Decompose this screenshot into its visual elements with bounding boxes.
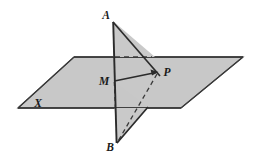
label-b: B <box>105 141 114 153</box>
label-x: X <box>33 97 42 109</box>
label-a: A <box>101 9 110 21</box>
label-p: P <box>163 66 171 78</box>
upper-triangle-front <box>113 21 155 57</box>
figure-canvas: A B M P X <box>0 0 256 159</box>
label-m: M <box>98 75 110 87</box>
geometry-figure: A B M P X <box>0 0 256 159</box>
plane-x-shape <box>18 57 243 108</box>
